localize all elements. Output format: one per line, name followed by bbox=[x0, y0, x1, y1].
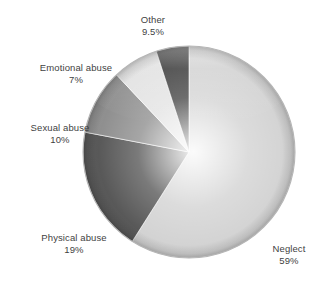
pie-label-emotional-abuse-name: Emotional abuse bbox=[22, 62, 130, 74]
pie-label-other: Other 9.5% bbox=[114, 14, 192, 38]
pie-label-sexual-abuse-value: 10% bbox=[8, 134, 112, 146]
pie-label-other-name: Other bbox=[114, 14, 192, 26]
pie-label-sexual-abuse-name: Sexual abuse bbox=[8, 122, 112, 134]
pie-label-physical-abuse-value: 19% bbox=[18, 244, 130, 256]
pie-label-neglect-name: Neglect bbox=[256, 243, 322, 255]
pie-label-emotional-abuse-value: 7% bbox=[22, 74, 130, 86]
pie-chart: Other 9.5% Emotional abuse 7% Sexual abu… bbox=[0, 0, 332, 288]
pie-label-neglect: Neglect 59% bbox=[256, 243, 322, 267]
pie-label-emotional-abuse: Emotional abuse 7% bbox=[22, 62, 130, 86]
pie-label-neglect-value: 59% bbox=[256, 255, 322, 267]
pie-label-physical-abuse: Physical abuse 19% bbox=[18, 232, 130, 256]
pie-label-other-value: 9.5% bbox=[114, 26, 192, 38]
pie-label-physical-abuse-name: Physical abuse bbox=[18, 232, 130, 244]
pie-label-sexual-abuse: Sexual abuse 10% bbox=[8, 122, 112, 146]
